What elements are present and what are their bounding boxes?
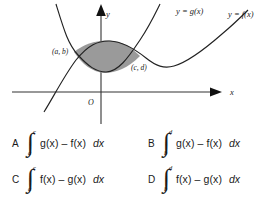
integral-lower-limit: a [28, 186, 31, 193]
integral-symbol: c ∫ a [26, 129, 39, 157]
x-axis-arrow-icon [210, 88, 222, 97]
question-figure-page: y = g(x) y = f(x) (a, b) (c, d) O x y A … [0, 0, 264, 208]
integral-symbol: c ∫ a [26, 165, 39, 193]
option-letter: D [148, 174, 162, 185]
answer-option-c[interactable]: C c ∫ a f(x) – g(x) dx [12, 164, 104, 194]
integrand-expression: f(x) – g(x) [176, 173, 222, 185]
integrand-expression: f(x) – g(x) [40, 173, 86, 185]
answer-option-b[interactable]: B d ∫ b g(x) – f(x) dx [148, 128, 240, 158]
answer-options: A c ∫ a g(x) – f(x) dx B d ∫ b g(x) – f(… [0, 124, 264, 208]
integrand-expression: g(x) – f(x) [40, 137, 86, 149]
curve-g-label: y = g(x) [175, 6, 204, 16]
y-axis-label: y [105, 9, 110, 19]
option-letter: A [12, 138, 26, 149]
point-right-label: (c, d) [131, 63, 147, 72]
integral-symbol: d ∫ b [162, 129, 175, 157]
integral-lower-limit: b [164, 186, 167, 193]
answer-option-a[interactable]: A c ∫ a g(x) – f(x) dx [12, 128, 104, 158]
integral-symbol: d ∫ b [162, 165, 175, 193]
x-axis [12, 88, 222, 97]
graph-figure: y = g(x) y = f(x) (a, b) (c, d) O x y [0, 0, 264, 124]
integral-lower-limit: b [164, 150, 167, 157]
x-axis-label: x [229, 87, 234, 97]
curve-f [44, 10, 248, 112]
option-letter: B [148, 138, 162, 149]
differential: dx [229, 137, 240, 149]
y-axis-arrow-icon [96, 4, 106, 16]
differential: dx [229, 173, 240, 185]
answer-option-d[interactable]: D d ∫ b f(x) – g(x) dx [148, 164, 240, 194]
option-letter: C [12, 174, 26, 185]
origin-label: O [88, 98, 94, 107]
differential: dx [93, 137, 104, 149]
curve-f-label: y = f(x) [227, 9, 254, 19]
integrand-expression: g(x) – f(x) [176, 137, 222, 149]
point-left-label: (a, b) [52, 47, 69, 56]
integral-lower-limit: a [28, 150, 31, 157]
differential: dx [93, 173, 104, 185]
